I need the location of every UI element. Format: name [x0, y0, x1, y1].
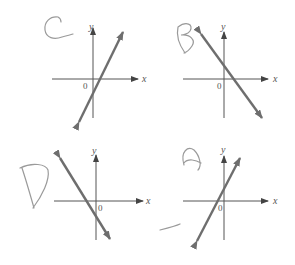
graph-c: x y 0: [45, 17, 147, 122]
graphs-canvas: x y 0 x y 0 x y 0 x y 0: [0, 0, 295, 265]
graph-b: x y 0: [177, 21, 278, 118]
handwritten-label-d: [20, 164, 48, 208]
y-axis-label: y: [220, 21, 226, 32]
y-axis-label: y: [220, 144, 226, 155]
y-axis-label: y: [91, 145, 97, 156]
x-axis-label: x: [272, 195, 278, 206]
origin-label: 0: [217, 81, 222, 91]
graph-line: [201, 34, 262, 118]
origin-label: 0: [83, 81, 88, 91]
origin-label: 0: [98, 203, 103, 213]
origin-label: 0: [218, 203, 223, 213]
y-axis-label: y: [88, 21, 94, 32]
graph-line: [60, 158, 110, 239]
handwritten-label-c: [45, 17, 73, 38]
graph-line: [79, 32, 123, 122]
x-axis-label: x: [272, 73, 278, 84]
graph-line: [197, 158, 240, 241]
handwritten-label-a: [183, 149, 201, 170]
x-axis-label: x: [145, 195, 151, 206]
graph-d: x y 0: [20, 145, 151, 240]
graph-a: x y 0: [160, 144, 278, 241]
x-axis-label: x: [141, 73, 147, 84]
handwritten-label-b: [177, 24, 193, 53]
pen-stroke: [160, 224, 180, 230]
